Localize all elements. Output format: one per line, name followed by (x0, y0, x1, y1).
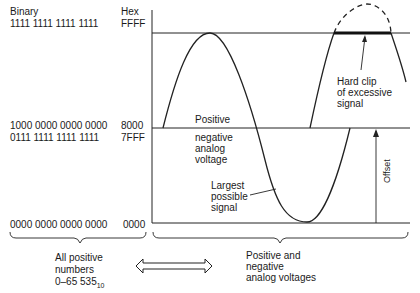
all-positive-line2: numbers (55, 264, 94, 275)
hex-8000: 8000 (121, 120, 143, 131)
binary-8000: 1000 0000 0000 0000 (10, 120, 107, 131)
hex-ffff: FFFF (121, 18, 145, 29)
right-brace (153, 232, 408, 243)
offset-arrowhead (373, 129, 379, 137)
largest-possible-signal-label: Largest possible signal (211, 180, 248, 213)
range-subscript: 10 (97, 282, 105, 289)
hex-header: Hex (121, 6, 139, 17)
all-positive-line3: 0–65 53510 (55, 276, 105, 291)
offset-label: Offset (382, 159, 392, 183)
clipped-peak-dashed (334, 4, 391, 33)
hard-clip-label: Hard clip of excessive signal (337, 76, 392, 109)
binary-7fff: 0111 1111 1111 1111 (10, 132, 99, 143)
largest-signal-pointer (250, 189, 276, 195)
binary-0000: 0000 0000 0000 0000 (10, 219, 107, 230)
left-brace (10, 232, 146, 243)
binary-ffff: 1111 1111 1111 1111 (10, 18, 98, 29)
positive-negative-voltages-label: Positive and negative analog voltages (246, 250, 316, 283)
all-positive-line1: All positive (55, 252, 103, 263)
hex-0000: 0000 (123, 219, 145, 230)
range-value: 0–65 535 (55, 276, 97, 287)
hex-7fff: 7FFF (121, 132, 145, 143)
hard-clip-arrowhead (362, 35, 367, 42)
sine-wave-falling (391, 33, 406, 82)
positive-label: Positive (195, 114, 230, 125)
sine-wave-rising (310, 33, 334, 128)
double-arrow (136, 259, 212, 273)
binary-header: Binary (10, 6, 38, 17)
negative-analog-voltage-label: negative analog voltage (195, 132, 233, 165)
